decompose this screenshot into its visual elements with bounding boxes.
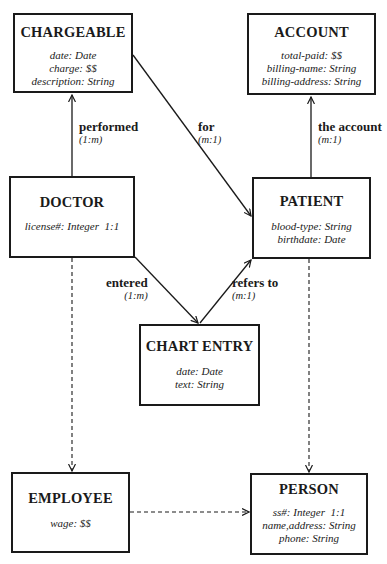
entity-attributes: total-paid: $$ billing-name: String bill… bbox=[249, 49, 374, 88]
entity-employee: EMPLOYEE wage: $$ bbox=[11, 472, 130, 553]
entity-patient: PATIENT blood-type: String birthdate: Da… bbox=[252, 177, 371, 259]
entity-title: PATIENT bbox=[254, 193, 369, 210]
relationship-label-performed: performed (1:m) bbox=[79, 119, 138, 146]
relationship-name: the account bbox=[318, 119, 382, 134]
attribute: billing-address: String bbox=[249, 75, 374, 88]
entity-attributes: date: Date text: String bbox=[141, 365, 258, 391]
attribute: blood-type: String bbox=[254, 220, 369, 233]
attribute: wage: $$ bbox=[13, 517, 128, 530]
relationship-label-for: for (m:1) bbox=[198, 119, 221, 146]
entity-title: ACCOUNT bbox=[249, 24, 374, 41]
attribute: total-paid: $$ bbox=[249, 49, 374, 62]
relationship-label-entered: entered (1:m) bbox=[106, 275, 148, 302]
attribute: name,address: String bbox=[252, 519, 366, 532]
entity-chart-entry: CHART ENTRY date: Date text: String bbox=[139, 324, 260, 406]
relationship-name: refers to bbox=[232, 275, 278, 290]
entity-title: EMPLOYEE bbox=[13, 490, 128, 507]
entity-attributes: wage: $$ bbox=[13, 517, 128, 530]
attribute: ss#: Integer 1:1 bbox=[252, 506, 366, 519]
relationship-cardinality: (1:m) bbox=[106, 290, 148, 302]
entity-attributes: ss#: Integer 1:1 name,address: String ph… bbox=[252, 506, 366, 545]
entity-title: PERSON bbox=[252, 481, 366, 498]
relationship-name: for bbox=[198, 119, 221, 134]
attribute: billing-name: String bbox=[249, 62, 374, 75]
er-diagram: CHARGEABLE date: Date charge: $$ descrip… bbox=[0, 0, 387, 564]
entity-attributes: blood-type: String birthdate: Date bbox=[254, 220, 369, 246]
relationship-cardinality: (1:m) bbox=[79, 134, 138, 146]
entity-title: DOCTOR bbox=[11, 194, 133, 211]
relationship-name: performed bbox=[79, 119, 138, 134]
attribute: charge: $$ bbox=[15, 62, 131, 75]
relationship-label-the-account: the account (m:1) bbox=[318, 119, 382, 146]
relationship-label-refers-to: refers to (m:1) bbox=[232, 275, 278, 302]
for-connector bbox=[133, 55, 251, 216]
attribute: phone: String bbox=[252, 532, 366, 545]
entity-title: CHARGEABLE bbox=[15, 24, 131, 41]
relationship-cardinality: (m:1) bbox=[318, 134, 382, 146]
entity-title: CHART ENTRY bbox=[141, 338, 258, 355]
attribute: text: String bbox=[141, 378, 258, 391]
attribute: birthdate: Date bbox=[254, 233, 369, 246]
relationship-name: entered bbox=[106, 275, 148, 290]
attribute: date: Date bbox=[141, 365, 258, 378]
entity-account: ACCOUNT total-paid: $$ billing-name: Str… bbox=[247, 13, 376, 95]
attribute: description: String bbox=[15, 75, 131, 88]
relationship-cardinality: (m:1) bbox=[232, 290, 278, 302]
entity-doctor: DOCTOR license#: Integer 1:1 bbox=[9, 176, 135, 258]
relationship-cardinality: (m:1) bbox=[198, 134, 221, 146]
entity-attributes: date: Date charge: $$ description: Strin… bbox=[15, 49, 131, 88]
attribute: license#: Integer 1:1 bbox=[11, 220, 133, 233]
attribute: date: Date bbox=[15, 49, 131, 62]
entity-person: PERSON ss#: Integer 1:1 name,address: St… bbox=[250, 473, 368, 555]
entity-attributes: license#: Integer 1:1 bbox=[11, 220, 133, 233]
entity-chargeable: CHARGEABLE date: Date charge: $$ descrip… bbox=[13, 13, 133, 93]
